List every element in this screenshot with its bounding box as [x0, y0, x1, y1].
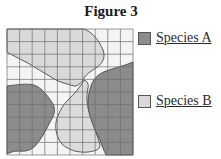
legend-label-species-a: Species A	[156, 30, 212, 46]
species-b-swatch-icon	[138, 95, 151, 108]
legend-item-species-b: Species B	[138, 93, 212, 109]
species-a-swatch-icon	[138, 32, 151, 45]
legend-label-species-b: Species B	[156, 93, 212, 109]
species-distribution-grid	[0, 0, 221, 159]
legend-item-species-a: Species A	[138, 30, 212, 46]
